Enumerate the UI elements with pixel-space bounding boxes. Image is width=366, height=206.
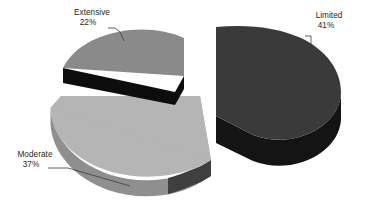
pie-label-moderate: Moderate 37% bbox=[8, 150, 62, 170]
pie-slice-limited[interactable] bbox=[216, 26, 341, 166]
pie-label-extensive: Extensive 22% bbox=[63, 8, 121, 28]
pie-slice-extensive[interactable] bbox=[63, 30, 184, 105]
pie-label-limited-name: Limited bbox=[303, 11, 355, 21]
pie-label-limited-percent: 41% bbox=[303, 21, 355, 31]
pie-label-moderate-percent: 37% bbox=[8, 160, 62, 170]
pie-chart: Extensive 22% Limited 41% Moderate 37% bbox=[0, 0, 366, 206]
pie-label-limited: Limited 41% bbox=[303, 11, 355, 31]
pie-label-extensive-name: Extensive bbox=[63, 8, 121, 18]
pie-slice-moderate[interactable] bbox=[51, 96, 212, 196]
pie-slice-limited-top bbox=[216, 26, 341, 140]
pie-label-extensive-percent: 22% bbox=[63, 18, 121, 28]
pie-label-moderate-name: Moderate bbox=[8, 150, 62, 160]
pie-slice-extensive-top bbox=[63, 30, 184, 76]
